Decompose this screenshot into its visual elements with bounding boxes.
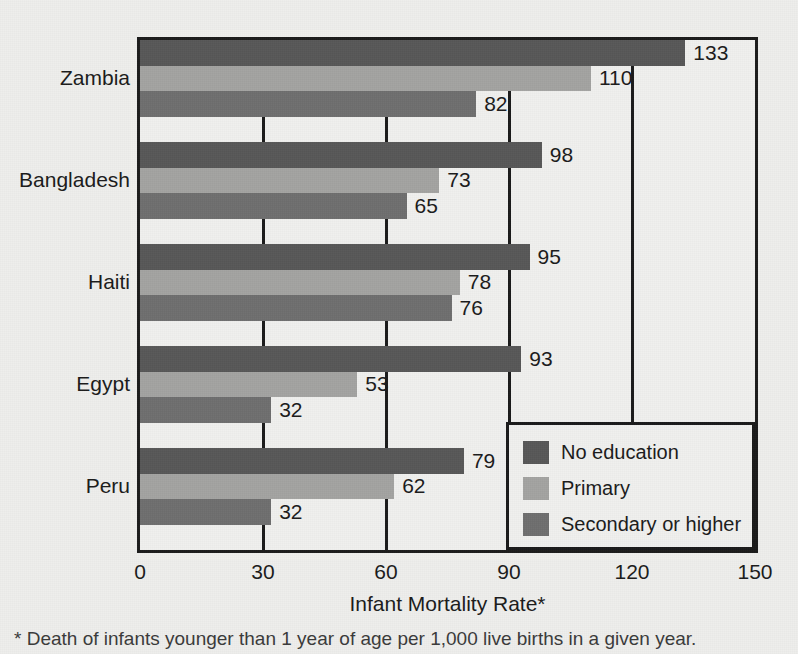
category-label-peru: Peru (0, 474, 130, 498)
legend-label: No education (561, 441, 679, 464)
bar-zambia-primary (140, 66, 591, 92)
legend-item-no-education[interactable]: No education (523, 434, 752, 470)
x-axis-tick-labels: 0306090120150 (137, 560, 758, 590)
bar-value-label: 93 (529, 348, 552, 369)
bar-haiti-primary (140, 270, 460, 296)
x-tick-label-150: 150 (737, 560, 772, 584)
legend: No educationPrimarySecondary or higher (506, 422, 755, 550)
bar-peru-no-education (140, 448, 464, 474)
bar-egypt-secondary-or-higher (140, 397, 271, 423)
bar-value-label: 62 (402, 475, 425, 496)
legend-swatch-icon (523, 513, 549, 536)
bar-value-label: 32 (279, 399, 302, 420)
footnote: * Death of infants younger than 1 year o… (14, 628, 696, 650)
bar-value-label: 79 (472, 450, 495, 471)
bar-bangladesh-primary (140, 168, 439, 194)
category-label-zambia: Zambia (0, 66, 130, 90)
bar-value-label: 65 (415, 195, 438, 216)
bar-value-label: 98 (550, 144, 573, 165)
legend-swatch-icon (523, 477, 549, 500)
bar-value-label: 73 (447, 169, 470, 190)
bar-bangladesh-secondary-or-higher (140, 193, 407, 219)
category-label-haiti: Haiti (0, 270, 130, 294)
category-label-egypt: Egypt (0, 372, 130, 396)
category-axis-labels: ZambiaBangladeshHaitiEgyptPeru (0, 0, 130, 654)
bar-value-label: 133 (693, 42, 728, 63)
x-axis-title: Infant Mortality Rate* (137, 592, 758, 616)
bar-zambia-no-education (140, 40, 685, 66)
legend-item-secondary-or-higher[interactable]: Secondary or higher (523, 506, 752, 542)
bar-egypt-primary (140, 372, 357, 398)
bar-peru-secondary-or-higher (140, 499, 271, 525)
category-label-bangladesh: Bangladesh (0, 168, 130, 192)
x-tick-label-120: 120 (614, 560, 649, 584)
x-tick-label-60: 60 (374, 560, 397, 584)
legend-label: Secondary or higher (561, 513, 741, 536)
bar-egypt-no-education (140, 346, 521, 372)
bar-haiti-secondary-or-higher (140, 295, 452, 321)
bar-value-label: 53 (365, 373, 388, 394)
bar-zambia-secondary-or-higher (140, 91, 476, 117)
x-tick-label-0: 0 (134, 560, 146, 584)
x-tick-label-90: 90 (497, 560, 520, 584)
bar-value-label: 110 (599, 67, 632, 88)
bar-value-label: 76 (460, 297, 483, 318)
bar-value-label: 95 (538, 246, 561, 267)
bar-peru-primary (140, 474, 394, 500)
chart-page: ZambiaBangladeshHaitiEgyptPeru 133110829… (0, 0, 798, 654)
bar-value-label: 78 (468, 271, 491, 292)
legend-swatch-icon (523, 441, 549, 464)
bar-haiti-no-education (140, 244, 530, 270)
legend-item-primary[interactable]: Primary (523, 470, 752, 506)
bar-bangladesh-no-education (140, 142, 542, 168)
bar-value-label: 82 (484, 93, 507, 114)
bar-value-label: 32 (279, 501, 302, 522)
x-tick-label-30: 30 (251, 560, 274, 584)
legend-label: Primary (561, 477, 630, 500)
